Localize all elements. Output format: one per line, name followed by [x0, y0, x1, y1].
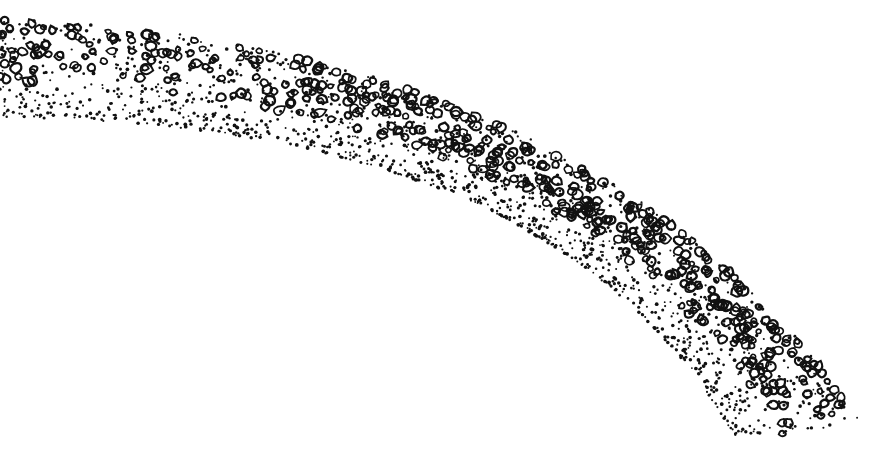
stipple-dot: [474, 185, 478, 189]
stipple-dot: [259, 137, 261, 139]
stipple-dot: [656, 330, 660, 334]
stipple-dot: [519, 174, 523, 178]
stipple-dot: [734, 417, 736, 419]
stipple-dot: [198, 84, 201, 87]
stipple-dot: [579, 257, 582, 260]
stipple-dot: [528, 197, 531, 200]
stipple-dot: [601, 227, 603, 229]
stipple-dot: [6, 47, 9, 50]
stipple-dot: [828, 423, 832, 427]
stipple-dot: [683, 337, 685, 339]
stipple-dot: [366, 160, 368, 162]
stipple-dot: [721, 397, 723, 399]
stipple-dot: [414, 178, 418, 182]
stipple-dot: [431, 150, 435, 154]
stipple-dot: [822, 427, 824, 429]
stipple-dot: [235, 70, 237, 72]
stipple-dot: [742, 337, 744, 339]
stipple-dot: [652, 285, 655, 288]
stipple-dot: [328, 72, 332, 76]
stipple-dot: [490, 208, 494, 212]
stipple-dot: [559, 193, 563, 197]
stipple-dot: [227, 80, 230, 83]
stipple-dot: [673, 240, 675, 242]
stipple-dot: [85, 114, 88, 117]
stipple-dot: [523, 161, 526, 164]
stipple-dot: [676, 312, 678, 314]
stipple-dot: [587, 267, 589, 269]
stipple-dot: [624, 284, 627, 287]
stipple-dot: [583, 224, 585, 226]
stipple-dot: [571, 256, 574, 259]
stipple-dot: [367, 76, 369, 78]
stipple-dot: [509, 209, 512, 212]
stipple-dot: [727, 424, 729, 426]
stipple-dot: [516, 161, 518, 163]
stipple-dot: [581, 186, 583, 188]
stipple-dot: [739, 399, 741, 401]
stipple-dot: [182, 116, 184, 118]
stipple-dot: [100, 118, 103, 121]
pebble-shape: [15, 73, 22, 80]
stipple-dot: [374, 142, 376, 144]
stipple-dot: [22, 37, 25, 40]
stipple-dot: [842, 405, 845, 408]
stipple-dot: [545, 189, 549, 193]
stipple-dot: [474, 160, 476, 162]
stipple-dot: [554, 238, 556, 240]
stipple-dot: [359, 112, 362, 115]
stipple-dot: [495, 186, 498, 189]
stipple-dot: [453, 186, 456, 189]
stipple-dot: [273, 95, 275, 97]
stipple-dot: [23, 115, 26, 118]
stipple-dot: [762, 369, 765, 372]
stipple-dot: [457, 144, 459, 146]
stipple-dot: [426, 116, 428, 118]
stipple-dot: [583, 244, 586, 247]
stipple-dot: [560, 159, 563, 162]
stipple-dot: [738, 388, 742, 392]
stipple-dot: [757, 419, 760, 422]
stipple-dot: [513, 216, 516, 219]
stipple-dot: [594, 218, 597, 221]
stipple-dot: [92, 72, 96, 76]
stipple-dot: [18, 106, 21, 109]
stipple-dot: [351, 143, 354, 146]
stipple-dot: [634, 215, 637, 218]
stipple-dot: [252, 78, 254, 80]
stipple-dot: [750, 300, 753, 303]
pebble-shape: [756, 329, 761, 333]
stipple-dot: [377, 154, 379, 156]
stipple-dot: [802, 402, 805, 405]
stipple-dot: [347, 126, 350, 129]
stipple-dot: [339, 143, 343, 147]
stipple-dot: [559, 244, 562, 247]
stipple-dot: [51, 71, 53, 73]
stipple-dot: [711, 399, 713, 401]
stipple-dot: [388, 116, 390, 118]
stipple-dot: [200, 97, 203, 100]
stipple-dot: [347, 141, 349, 143]
stipple-dot: [763, 322, 766, 325]
stipple-dot: [722, 363, 725, 366]
stipple-dot: [249, 60, 253, 64]
stipple-dot: [586, 263, 589, 266]
pebble-shape: [446, 147, 452, 152]
stipple-dot: [615, 268, 617, 270]
stipple-dot: [313, 120, 316, 123]
stipple-dot: [430, 160, 434, 164]
stipple-dot: [394, 121, 396, 123]
stipple-dot: [705, 379, 709, 383]
stipple-dot: [379, 140, 381, 142]
stipple-dot: [405, 94, 408, 97]
stipple-dot: [379, 132, 382, 135]
stipple-dot: [213, 59, 216, 62]
stipple-dot: [75, 36, 77, 38]
stipple-dot: [326, 66, 329, 69]
stipple-dot: [541, 195, 544, 198]
pebble-shape: [830, 386, 839, 394]
stipple-dot: [689, 281, 692, 284]
stipple-dot: [256, 123, 259, 126]
stipple-dot: [157, 83, 159, 85]
stipple-dot: [538, 227, 541, 230]
